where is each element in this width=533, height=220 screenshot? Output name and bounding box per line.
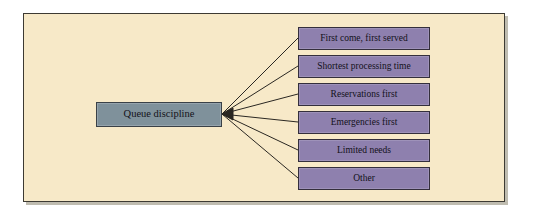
node-reservations-first[interactable]: Reservations first <box>298 83 430 106</box>
node-emergencies-first[interactable]: Emergencies first <box>298 111 430 134</box>
node-queue-discipline[interactable]: Queue discipline <box>96 102 222 127</box>
diagram-canvas: Queue discipline First come, first serve… <box>0 0 533 220</box>
node-first-come-first-served[interactable]: First come, first served <box>298 27 430 50</box>
node-limited-needs[interactable]: Limited needs <box>298 139 430 162</box>
node-other[interactable]: Other <box>298 167 430 190</box>
node-shortest-processing-time[interactable]: Shortest processing time <box>298 55 430 78</box>
